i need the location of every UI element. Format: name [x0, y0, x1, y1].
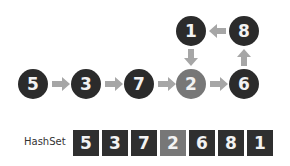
node-5: 5 — [18, 69, 48, 99]
node-1: 1 — [176, 16, 206, 46]
arrow-1-to-2 — [184, 49, 198, 66]
hashset-cell-4: 6 — [189, 130, 215, 156]
node-label: 8 — [238, 21, 250, 41]
arrow-2-to-6 — [210, 77, 228, 91]
node-label: 1 — [185, 21, 197, 41]
node-label: 2 — [185, 74, 197, 94]
hashset-label: HashSet — [24, 136, 66, 147]
hashset-cell-1: 3 — [102, 130, 128, 156]
hashset-cell-3: 2 — [160, 130, 186, 156]
node-label: 5 — [27, 74, 39, 94]
arrow-6-to-8 — [237, 49, 251, 66]
hashset-cell-5: 8 — [218, 130, 244, 156]
node-2: 2 — [176, 69, 206, 99]
node-6: 6 — [229, 69, 259, 99]
node-7: 7 — [124, 69, 154, 99]
node-3: 3 — [71, 69, 101, 99]
arrow-8-to-1 — [209, 24, 226, 38]
node-label: 7 — [133, 74, 145, 94]
hashset-cell-0: 5 — [73, 130, 99, 156]
node-label: 6 — [238, 74, 250, 94]
node-label: 3 — [80, 74, 92, 94]
arrow-3-to-7 — [105, 77, 123, 91]
hashset-cell-6: 1 — [247, 130, 273, 156]
node-8: 8 — [229, 16, 259, 46]
hashset-cell-2: 7 — [131, 130, 157, 156]
arrow-5-to-3 — [52, 77, 70, 91]
arrow-7-to-2 — [158, 77, 176, 91]
